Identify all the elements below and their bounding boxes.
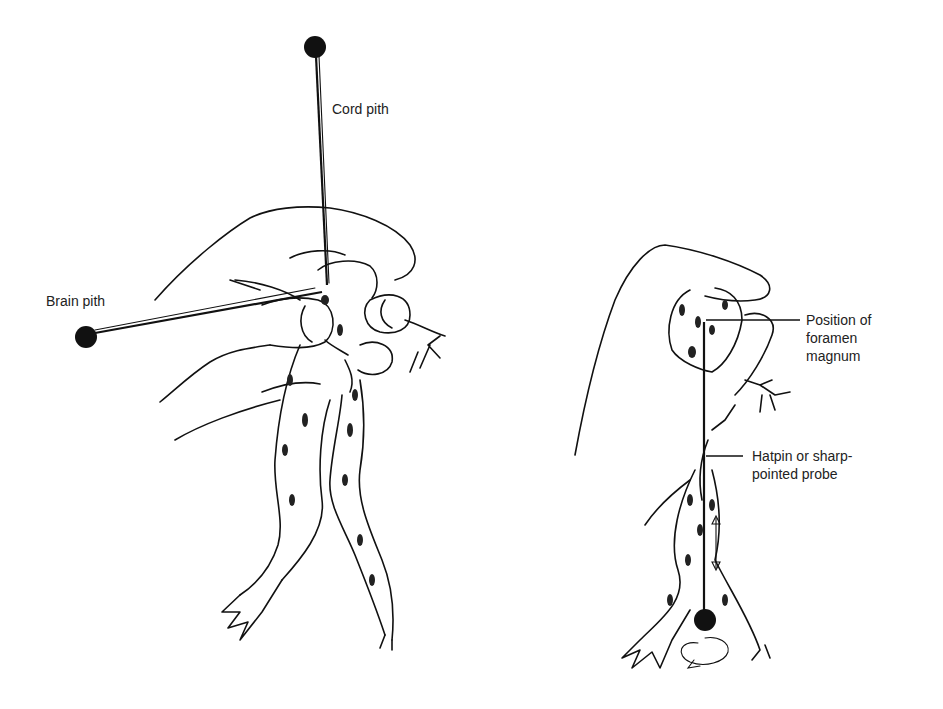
label-foramen-line2: foramen: [806, 329, 871, 347]
left-panel: [75, 36, 445, 650]
pithing-illustration: [0, 0, 943, 709]
label-foramen-line1: Position of: [806, 311, 871, 329]
right-hand: [575, 245, 773, 500]
label-probe-line1: Hatpin or sharp-: [752, 447, 852, 465]
label-brain-pith: Brain pith: [46, 292, 105, 310]
left-hand: [155, 207, 415, 440]
label-cord-pith: Cord pith: [332, 100, 389, 118]
label-probe-line2: pointed probe: [752, 465, 852, 483]
cord-pith-needle: [304, 36, 329, 285]
label-foramen-line3: magnum: [806, 347, 871, 365]
label-hatpin-probe: Hatpin or sharp- pointed probe: [752, 447, 852, 483]
rotation-arrow-icon: [681, 638, 728, 668]
label-foramen-magnum: Position of foramen magnum: [806, 311, 871, 365]
brain-pith-needle: [75, 288, 322, 348]
